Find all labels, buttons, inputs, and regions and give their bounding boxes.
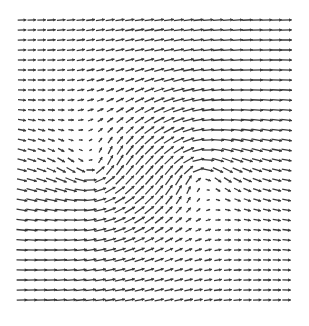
arrowhead-icon — [289, 78, 292, 81]
arrowhead-icon — [268, 248, 271, 251]
arrowhead-icon — [218, 219, 220, 222]
arrowhead-icon — [248, 248, 251, 251]
arrowhead-icon — [228, 238, 231, 241]
arrowhead-icon — [33, 108, 36, 111]
arrowhead-icon — [42, 108, 45, 111]
arrowhead-icon — [289, 129, 292, 132]
arrowhead-icon — [249, 268, 252, 271]
arrowhead-icon — [289, 88, 292, 91]
arrowhead-icon — [278, 228, 281, 231]
arrowhead-icon — [268, 268, 271, 271]
arrowhead-icon — [82, 28, 85, 31]
arrowhead-icon — [63, 18, 66, 21]
arrowhead-icon — [71, 118, 73, 121]
arrowhead-icon — [249, 288, 252, 291]
arrowhead-icon — [23, 88, 26, 91]
arrowhead-icon — [53, 48, 56, 51]
arrowhead-icon — [24, 28, 27, 31]
arrowhead-icon — [289, 109, 292, 112]
arrowhead-icon — [278, 238, 281, 241]
arrowhead-icon — [268, 238, 271, 241]
arrowhead-icon — [289, 48, 292, 51]
arrowhead-icon — [23, 98, 26, 101]
arrowhead-icon — [258, 258, 261, 261]
arrowhead-icon — [23, 48, 26, 51]
arrowhead-icon — [53, 58, 56, 61]
arrowhead-icon — [43, 28, 46, 31]
arrowhead-icon — [209, 298, 212, 301]
arrowhead-icon — [288, 248, 291, 251]
arrowhead-icon — [33, 48, 36, 51]
arrowhead-icon — [52, 88, 55, 91]
arrowhead-icon — [249, 298, 252, 301]
arrowhead-icon — [191, 18, 194, 21]
arrowhead-icon — [82, 38, 85, 41]
arrowhead-icon — [43, 38, 46, 41]
arrowhead-icon — [201, 18, 204, 21]
arrowhead-icon — [218, 209, 220, 211]
arrowhead-icon — [228, 248, 231, 251]
arrowhead-icon — [249, 278, 252, 281]
arrowhead-icon — [71, 129, 73, 132]
arrowhead-icon — [289, 38, 292, 41]
arrowhead-icon — [288, 278, 291, 281]
arrowhead-icon — [239, 268, 242, 271]
arrowhead-icon — [53, 68, 56, 71]
arrowhead-icon — [33, 88, 36, 91]
arrowhead-icon — [33, 28, 36, 31]
arrowhead-icon — [92, 38, 95, 41]
arrowhead-icon — [238, 248, 241, 251]
arrowhead-icon — [102, 18, 105, 21]
arrowhead-icon — [228, 228, 231, 231]
arrowhead-icon — [81, 129, 83, 131]
arrowhead-icon — [278, 258, 281, 261]
arrowhead-icon — [278, 248, 281, 251]
arrowhead-icon — [238, 228, 241, 231]
arrowhead-icon — [289, 58, 292, 61]
quiver-plot — [0, 0, 309, 326]
arrowhead-icon — [72, 88, 75, 91]
arrowhead-icon — [52, 78, 55, 81]
arrowhead-icon — [72, 48, 75, 51]
arrowhead-icon — [258, 248, 261, 251]
arrowhead-icon — [62, 98, 65, 101]
arrowhead-icon — [33, 68, 36, 71]
arrowhead-icon — [229, 258, 232, 261]
arrowhead-icon — [33, 78, 36, 81]
arrowhead-icon — [23, 68, 26, 71]
arrowhead-icon — [268, 258, 271, 261]
arrowhead-icon — [289, 119, 292, 122]
arrowhead-icon — [43, 98, 46, 101]
arrowhead-icon — [258, 268, 261, 271]
arrowhead-icon — [43, 58, 46, 61]
arrowhead-icon — [43, 18, 46, 21]
arrowhead-icon — [62, 118, 65, 121]
arrowhead-icon — [23, 108, 26, 111]
arrowhead-icon — [228, 219, 231, 222]
arrowhead-icon — [82, 18, 85, 21]
arrowhead-icon — [219, 278, 222, 281]
arrowhead-icon — [43, 68, 46, 71]
arrowhead-icon — [72, 58, 75, 61]
arrowhead-icon — [33, 18, 36, 21]
arrowhead-icon — [239, 288, 242, 291]
arrowhead-icon — [229, 298, 232, 301]
arrowhead-icon — [181, 18, 184, 21]
arrowhead-icon — [53, 28, 56, 31]
arrowhead-icon — [92, 168, 95, 171]
arrowhead-icon — [33, 38, 36, 41]
arrowhead-icon — [72, 38, 75, 41]
arrowhead-icon — [102, 28, 105, 31]
arrowhead-icon — [219, 288, 222, 291]
arrowhead-icon — [63, 28, 66, 31]
arrowhead-icon — [239, 258, 242, 261]
arrowhead-icon — [218, 228, 221, 231]
arrowhead-icon — [33, 58, 36, 61]
arrowhead-icon — [229, 268, 232, 271]
arrowhead-icon — [239, 278, 242, 281]
arrowhead-icon — [229, 278, 232, 281]
arrowhead-icon — [289, 28, 292, 31]
arrowhead-icon — [258, 238, 261, 241]
arrowhead-icon — [43, 48, 46, 51]
arrowhead-icon — [258, 228, 261, 231]
